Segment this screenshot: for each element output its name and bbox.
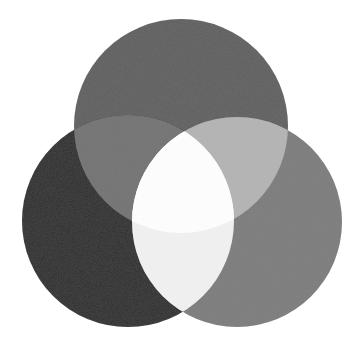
circle-regions (22, 19, 342, 327)
three-circle-venn-diagram (0, 0, 354, 346)
diagram-canvas (0, 0, 354, 346)
